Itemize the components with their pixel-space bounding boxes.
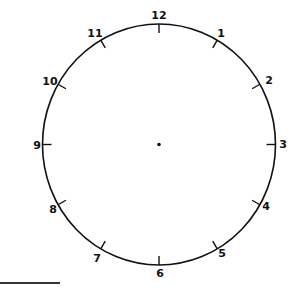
hour-tick xyxy=(213,40,218,48)
hour-1: 1 xyxy=(217,27,225,40)
hour-tick xyxy=(58,200,66,205)
hour-11: 11 xyxy=(87,27,102,40)
center-dot xyxy=(157,143,161,147)
hour-tick xyxy=(58,84,66,89)
hour-12: 12 xyxy=(151,9,166,22)
hour-10: 10 xyxy=(42,75,58,88)
clock-face: 12 1 2 3 4 5 6 7 8 9 10 11 xyxy=(0,0,306,293)
hour-tick xyxy=(213,241,218,249)
hour-tick xyxy=(252,84,260,89)
baseline-rule xyxy=(0,282,60,284)
hour-tick xyxy=(101,241,106,249)
hour-4: 4 xyxy=(262,200,270,213)
hour-8: 8 xyxy=(49,203,57,216)
hour-2: 2 xyxy=(265,74,273,87)
hour-9: 9 xyxy=(33,139,41,152)
hour-6: 6 xyxy=(156,267,164,280)
hour-3: 3 xyxy=(279,138,287,151)
hour-tick xyxy=(252,200,260,205)
hour-5: 5 xyxy=(218,247,226,260)
hour-tick xyxy=(101,40,106,48)
hour-7: 7 xyxy=(93,252,101,265)
